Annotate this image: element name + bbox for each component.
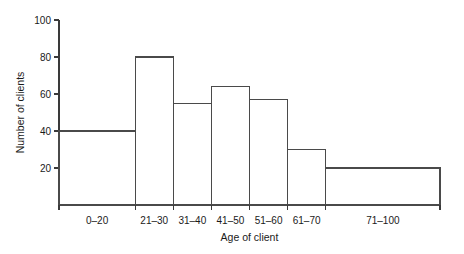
x-tick-label: 0–20 <box>86 215 109 226</box>
x-tick-label: 41–50 <box>217 215 245 226</box>
histogram-plot-area: 204060801000–2021–3031–4041–5051–6061–70… <box>0 0 464 254</box>
histogram-bar <box>326 168 440 205</box>
histogram-bar <box>173 103 211 205</box>
x-axis-title: Age of client <box>221 231 279 243</box>
x-tick-label: 61–70 <box>293 215 321 226</box>
y-tick-label: 60 <box>40 89 52 100</box>
x-tick-label: 31–40 <box>178 215 206 226</box>
histogram-bar <box>135 57 173 205</box>
y-tick-label: 100 <box>34 15 51 26</box>
histogram-figure: 204060801000–2021–3031–4041–5051–6061–70… <box>0 0 464 254</box>
histogram-bar <box>250 100 288 205</box>
histogram-bar <box>59 131 135 205</box>
x-tick-label: 51–60 <box>255 215 283 226</box>
histogram-bar <box>211 87 249 205</box>
y-tick-label: 20 <box>40 163 52 174</box>
y-tick-label: 40 <box>40 126 52 137</box>
x-tick-label: 71–100 <box>366 215 400 226</box>
x-tick-label: 21–30 <box>140 215 168 226</box>
histogram-bar <box>288 150 326 206</box>
y-axis-title: Number of clients <box>14 72 26 154</box>
y-tick-label: 80 <box>40 52 52 63</box>
